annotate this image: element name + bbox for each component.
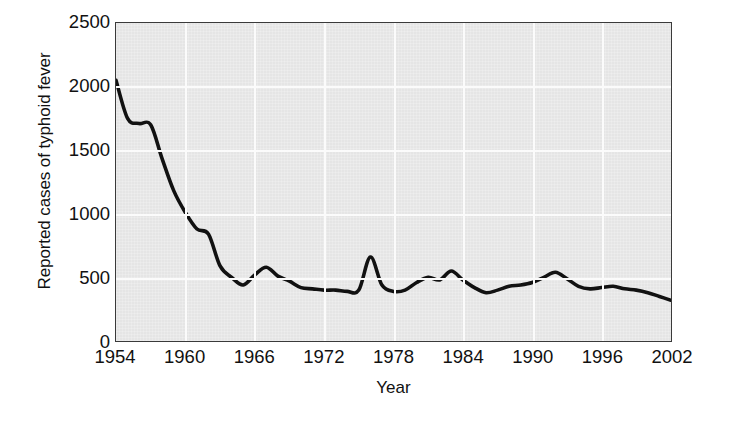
gridline-vertical (394, 23, 396, 341)
y-axis-tick-label: 2000 (54, 77, 110, 96)
gridline-vertical (602, 23, 604, 341)
x-axis-tick-label: 1978 (373, 348, 414, 367)
gridline-vertical (324, 23, 326, 341)
plot-area (115, 22, 672, 342)
x-axis-tick-label: 1960 (164, 348, 205, 367)
x-axis-title: Year (115, 378, 672, 398)
gridline-vertical (185, 23, 187, 341)
gridline-vertical (254, 23, 256, 341)
y-axis-tick-label: 1500 (54, 141, 110, 160)
typhoid-fever-chart-figure: Reported cases of typhoid fever 05001000… (0, 0, 731, 423)
x-axis-tick-labels: 195419601966197219781984199019962002 (115, 348, 672, 374)
y-axis-tick-label: 500 (54, 269, 110, 288)
x-axis-tick-label: 1984 (443, 348, 484, 367)
gridline-vertical (463, 23, 465, 341)
x-axis-tick-label: 2002 (651, 348, 692, 367)
gridline-vertical (533, 23, 535, 341)
x-axis-tick-label: 1954 (94, 348, 135, 367)
x-axis-tick-label: 1990 (512, 348, 553, 367)
x-axis-tick-label: 1996 (582, 348, 623, 367)
y-axis-tick-label: 1000 (54, 205, 110, 224)
y-axis-tick-label: 2500 (54, 13, 110, 32)
x-axis-tick-label: 1966 (234, 348, 275, 367)
x-axis-tick-label: 1972 (303, 348, 344, 367)
